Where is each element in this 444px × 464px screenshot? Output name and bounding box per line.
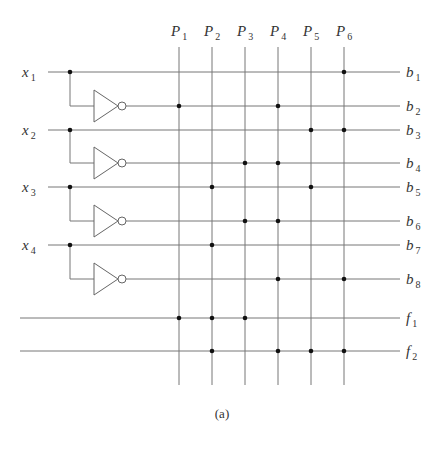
connection-dot-f2-p2 xyxy=(210,349,215,354)
connection-dot-b8-p4 xyxy=(276,277,281,282)
input-label-x2: x2 xyxy=(21,122,36,141)
connection-dot-b6-p4 xyxy=(276,219,281,224)
inverter-bubble-icon xyxy=(118,102,126,110)
inverter-branch-wire xyxy=(70,245,94,279)
input-label-x3: x3 xyxy=(21,179,36,198)
row-label-b2: b2 xyxy=(406,98,421,117)
connection-dot-f2-p5 xyxy=(309,349,314,354)
junction-dot xyxy=(68,128,73,133)
connection-dot-f2-p4 xyxy=(276,349,281,354)
column-label-p5: P5 xyxy=(302,23,319,42)
connection-dot-f1-p1 xyxy=(177,316,182,321)
connection-dot-b2-p1 xyxy=(177,104,182,109)
junction-dot xyxy=(68,243,73,248)
column-label-p1: P1 xyxy=(170,23,187,42)
not-gate-icon xyxy=(94,263,118,295)
connection-dot-b3-p5 xyxy=(309,128,314,133)
connection-dot-b5-p5 xyxy=(309,185,314,190)
inverter-branch-wire xyxy=(70,187,94,221)
input-section: x1x2x3x4 xyxy=(21,64,126,295)
inverter-bubble-icon xyxy=(118,275,126,283)
connection-dot-b2-p4 xyxy=(276,104,281,109)
connection-dots xyxy=(177,70,347,354)
inverter-branch-wire xyxy=(70,130,94,163)
connection-dot-b6-p3 xyxy=(243,219,248,224)
connection-dot-b7-p2 xyxy=(210,243,215,248)
column-label-p6: P6 xyxy=(335,23,352,42)
connection-dot-f1-p3 xyxy=(243,316,248,321)
row-label-b5: b5 xyxy=(406,179,421,198)
row-label-b4: b4 xyxy=(406,155,421,174)
row-label-b8: b8 xyxy=(406,271,421,290)
connection-dot-b8-p6 xyxy=(342,277,347,282)
column-label-p4: P4 xyxy=(269,23,286,42)
connection-dot-b1-p6 xyxy=(342,70,347,75)
column-label-p3: P3 xyxy=(236,23,253,42)
row-label-f2: f2 xyxy=(406,343,417,362)
pla-circuit-diagram: P1P2P3P4P5P6 b1b2b3b4b5b6b7b8f1f2 x1x2x3… xyxy=(0,0,444,464)
inverter-bubble-icon xyxy=(118,159,126,167)
input-label-x4: x4 xyxy=(21,237,36,256)
connection-dot-b3-p6 xyxy=(342,128,347,133)
input-label-x1: x1 xyxy=(21,64,36,83)
connection-dot-f1-p2 xyxy=(210,316,215,321)
connection-dot-f2-p6 xyxy=(342,349,347,354)
not-gate-icon xyxy=(94,147,118,179)
junction-dot xyxy=(68,185,73,190)
row-label-b3: b3 xyxy=(406,122,421,141)
figure-caption: (a) xyxy=(215,406,229,421)
connection-dot-b4-p3 xyxy=(243,161,248,166)
not-gate-icon xyxy=(94,90,118,122)
junction-dot xyxy=(68,70,73,75)
signal-rows: b1b2b3b4b5b6b7b8f1f2 xyxy=(20,64,421,362)
row-label-b6: b6 xyxy=(406,213,421,232)
not-gate-icon xyxy=(94,205,118,237)
connection-dot-b4-p4 xyxy=(276,161,281,166)
inverter-bubble-icon xyxy=(118,217,126,225)
column-label-p2: P2 xyxy=(203,23,220,42)
connection-dot-b5-p2 xyxy=(210,185,215,190)
row-label-b1: b1 xyxy=(406,64,421,83)
row-label-f1: f1 xyxy=(406,310,417,329)
product-term-columns: P1P2P3P4P5P6 xyxy=(170,23,352,385)
row-label-b7: b7 xyxy=(406,237,421,256)
inverter-branch-wire xyxy=(70,72,94,106)
